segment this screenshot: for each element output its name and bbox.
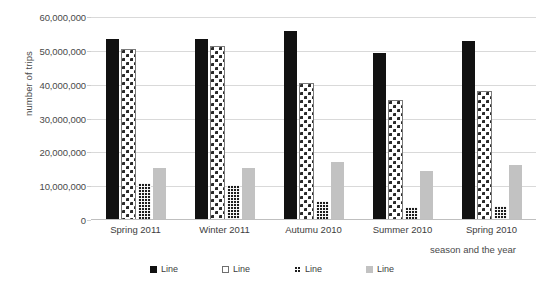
y-axis-tick-label: 40,000,000 [39,79,86,90]
bar [210,46,225,220]
y-axis-tick-label: 0 [81,215,86,226]
bar [299,83,314,220]
plot-area [91,17,536,220]
bar-group [447,17,536,220]
bar-chart: number of trips 010,000,00020,000,00030,… [0,0,544,300]
legend-swatch-icon [222,266,229,273]
bar-groups [91,17,536,220]
bar-group [269,17,358,220]
bar [284,31,297,220]
bar [420,171,433,220]
legend-swatch-icon [294,266,301,273]
bar [373,53,386,220]
x-axis-category-label: Winter 2011 [180,224,269,235]
bar [153,168,166,220]
x-axis-category-labels: Spring 2011Winter 2011Autumu 2010Summer … [91,224,536,235]
bar-group [358,17,447,220]
legend-item: Line [366,264,394,274]
bar [331,162,344,220]
y-axis-tick-label: 30,000,000 [39,113,86,124]
legend-swatch-icon [366,266,373,273]
legend-swatch-icon [150,266,157,273]
y-axis-tickmark [87,220,91,221]
bar [477,91,492,220]
y-axis-tick-labels: 010,000,00020,000,00030,000,00040,000,00… [14,0,86,300]
bar [227,185,240,220]
y-axis-tick-label: 50,000,000 [39,45,86,56]
legend-label: Line [161,264,178,274]
legend-label: Line [233,264,250,274]
bar [138,183,151,220]
bar [195,39,208,220]
legend-item: Line [150,264,178,274]
bar-group [180,17,269,220]
y-axis-tick-label: 20,000,000 [39,147,86,158]
bar [509,165,522,220]
x-axis-category-label: Autumu 2010 [269,224,358,235]
legend-item: Line [222,264,250,274]
bar [494,206,507,220]
bar [121,49,136,220]
legend-label: Line [377,264,394,274]
bar [106,39,119,220]
legend-item: Line [294,264,322,274]
bar [462,41,475,220]
chart-legend: LineLineLineLine [0,264,544,274]
legend-label: Line [305,264,322,274]
x-axis-category-label: Summer 2010 [358,224,447,235]
x-axis-category-label: Spring 2011 [91,224,180,235]
bar [388,100,403,220]
bar [316,201,329,220]
y-axis-tick-label: 10,000,000 [39,181,86,192]
bar-group [91,17,180,220]
x-axis-line [91,219,536,220]
y-axis-tick-label: 60,000,000 [39,12,86,23]
x-axis-title: season and the year [0,244,516,255]
bar [242,168,255,220]
x-axis-category-label: Spring 2010 [447,224,536,235]
